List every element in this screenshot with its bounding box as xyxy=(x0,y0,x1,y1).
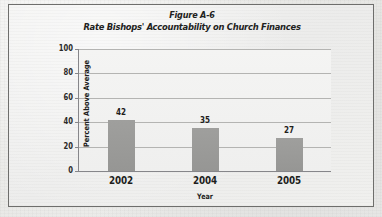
figure-title-block: Figure A-6 Rate Bishops' Accountability … xyxy=(9,10,375,33)
x-axis-line xyxy=(78,171,331,172)
bar xyxy=(192,128,219,171)
plot-area: 020406080100 423527 200220042005 Percent… xyxy=(79,49,331,171)
bar-value-label: 35 xyxy=(188,115,222,125)
x-tick-label: 2005 xyxy=(267,175,311,186)
y-axis-line xyxy=(78,49,79,171)
y-tick-label: 60 xyxy=(54,93,73,102)
bar-value-label: 27 xyxy=(272,125,306,135)
y-axis-title: Percent Above Average xyxy=(82,55,91,152)
bar-value-label: 42 xyxy=(104,107,138,117)
gridline xyxy=(79,73,331,74)
bar xyxy=(108,120,135,171)
bar xyxy=(276,138,303,171)
gridline xyxy=(79,49,331,50)
chart-title: Rate Bishops' Accountability on Church F… xyxy=(31,21,353,33)
x-tick-label: 2002 xyxy=(99,175,143,186)
y-tick-label: 80 xyxy=(54,68,73,77)
y-tick-label: 20 xyxy=(54,142,73,151)
figure-number: Figure A-6 xyxy=(27,10,356,21)
y-tick-label: 100 xyxy=(54,44,73,53)
x-tick-label: 2004 xyxy=(183,175,227,186)
y-tick-label: 40 xyxy=(54,117,73,126)
x-axis-title: Year xyxy=(98,192,312,201)
figure-frame: Figure A-6 Rate Bishops' Accountability … xyxy=(8,4,374,207)
y-tick-label: 0 xyxy=(54,166,73,175)
gridline xyxy=(79,98,331,99)
